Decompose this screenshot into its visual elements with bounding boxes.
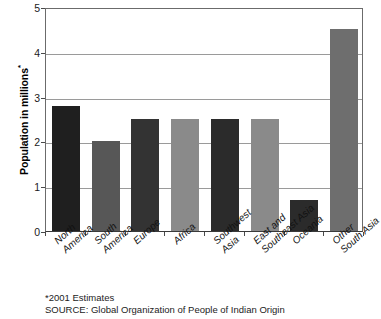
bar bbox=[251, 119, 279, 231]
y-tick-label: 5 bbox=[9, 2, 45, 14]
chart-footer: *2001 Estimates SOURCE: Global Organizat… bbox=[45, 292, 365, 316]
bar bbox=[330, 29, 358, 231]
footnote-source: SOURCE: Global Organization of People of… bbox=[45, 304, 365, 316]
x-axis-tick-labels: NorthAmericaSouthAmericaEuropeAfricaSout… bbox=[0, 232, 366, 290]
y-tick-label: 2 bbox=[9, 136, 45, 148]
y-tick-label: 4 bbox=[9, 47, 45, 59]
bar bbox=[171, 119, 199, 231]
footnote-estimates: *2001 Estimates bbox=[45, 292, 365, 304]
bar-series bbox=[46, 9, 362, 231]
bar bbox=[211, 119, 239, 231]
y-axis-tick-labels: 012345 bbox=[0, 8, 45, 232]
bar bbox=[52, 106, 80, 231]
y-tick-label: 1 bbox=[9, 181, 45, 193]
y-tick-label: 3 bbox=[9, 92, 45, 104]
bar bbox=[131, 119, 159, 231]
plot-area bbox=[45, 8, 363, 232]
